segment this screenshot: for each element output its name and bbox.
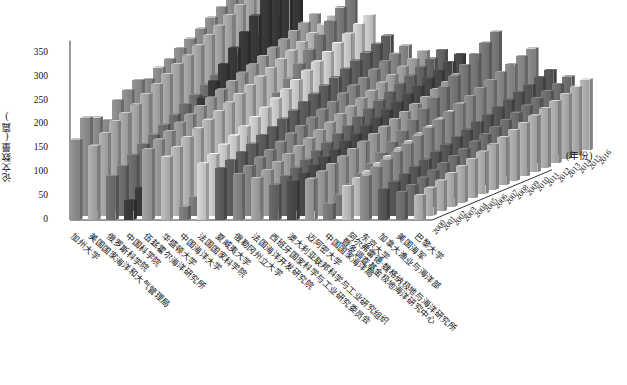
bar-front-face [70,140,79,220]
bar-front-face [233,174,242,220]
bar-side-face [423,194,426,220]
z-axis-tick-2016: 2016 [597,149,614,167]
bar-2-2000 [88,146,97,220]
bar-side-face [351,185,354,220]
bar-side-face [465,165,468,203]
bar-20-2000 [414,195,423,220]
bar-front-face [124,200,133,220]
bar-front-face [251,178,260,220]
bar-front-face [342,186,351,220]
bar-side-face [152,148,155,220]
bar-front-face [142,149,151,220]
bar-13-2000 [287,181,296,220]
bar-side-face [133,199,136,220]
bar-side-face [314,177,317,220]
bar-side-face [188,205,191,220]
bar-5-2000 [142,149,151,220]
bar-16-2000 [342,186,351,220]
y-axis-tick-100: 100 [16,166,48,176]
bar-8-2000 [197,164,206,220]
bar-side-face [369,174,372,220]
bar-side-face [206,162,209,220]
y-axis-tick-300: 300 [16,71,48,81]
bar-side-face [485,150,488,194]
bar-front-face [161,157,170,220]
bar-18-2000 [378,189,387,220]
bar-6-2000 [161,157,170,220]
bar-12-2000 [269,185,278,220]
bar-side-face [517,129,520,181]
y-axis-tick-250: 250 [16,95,48,105]
bar-front-face [305,179,314,220]
bar-14-2000 [305,179,314,220]
bar-10-2000 [233,174,242,220]
bar-side-face [558,100,561,164]
bar-front-face [179,207,188,220]
bar-side-face [527,122,530,177]
bar-side-face [444,179,447,211]
bar-side-face [79,138,82,220]
bar-side-face [433,186,436,215]
bar-19-2000 [396,192,405,220]
bar-front-face [378,189,387,220]
bar-front-face [197,164,206,220]
y-axis-tick-50: 50 [16,190,48,200]
bar-front-face [323,204,332,220]
bar-side-face [115,175,118,220]
bar-side-face [296,180,299,220]
bar-side-face [537,114,540,172]
bar-17-2000 [360,176,369,220]
bar-front-face [106,176,115,220]
bar-side-face [589,78,592,150]
bar-front-face [88,146,97,220]
bar-side-face [405,191,408,220]
bar-side-face [548,107,551,168]
bar-side-face [224,167,227,220]
chart-figure: 论文数量(篇) 050100150200250300350 加州大学美国国家海洋… [0,0,627,385]
bar-11-2000 [251,178,260,220]
bar-side-face [278,183,281,220]
bar-side-face [180,146,183,216]
bar-front-face [269,185,278,220]
bar-side-face [579,85,582,154]
bar-4-2000 [124,200,133,220]
bar-side-face [333,202,336,220]
y-axis-tick-350: 350 [16,47,48,57]
bar-front-face [287,181,296,220]
bar-side-face [170,155,173,220]
y-axis-title: 论文数量(篇) [2,112,16,182]
y-axis-tick-0: 0 [16,214,48,224]
bar-front-face [215,168,224,220]
bar-side-face [496,143,499,189]
bar-side-face [260,176,263,220]
bar-front-face [414,195,423,220]
bar-side-face [242,173,245,220]
bar-front-face [396,192,405,220]
bar-side-face [387,188,390,220]
bar-side-face [475,158,478,199]
bar-side-face [454,172,457,207]
bar-3-2000 [106,176,115,220]
z-axis-title: (年份) [566,148,592,162]
bar-side-face [506,136,509,185]
bar-9-2000 [215,168,224,220]
bar-front-face [360,176,369,220]
bar-1-2000 [70,140,79,220]
y-axis-tick-200: 200 [16,118,48,128]
bar-15-2000 [323,204,332,220]
bar-side-face [97,144,100,220]
bar-7-2000 [179,207,188,220]
y-axis-tick-150: 150 [16,142,48,152]
